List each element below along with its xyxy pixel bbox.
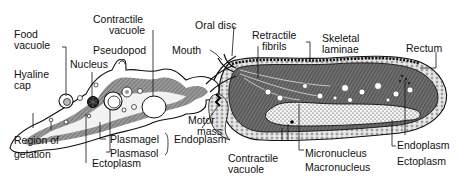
label-contractile-vacuole-ciliate: Contractile vacuole <box>228 153 278 175</box>
label-hyaline-cap: Hyaline cap <box>14 69 49 91</box>
label-macronucleus: Macronucleus <box>305 162 370 173</box>
label-line-2: vacuole <box>14 40 50 51</box>
label-oral-disc: Oral disc <box>195 20 236 31</box>
label-line-2: gelation <box>14 149 59 160</box>
label-ectoplasm-ciliate: Ectoplasm <box>397 156 446 167</box>
label-retractile-fibrils: Retractile fibrils <box>252 30 296 52</box>
label-line-2: mass <box>188 126 222 137</box>
label-plasmagel: Plasmagel <box>110 134 159 145</box>
label-contractile-vacuole-amoeba: Contractile vacuole <box>93 14 145 36</box>
label-pseudopod: Pseudopod <box>93 45 146 56</box>
label-food-vacuole: Food vacuole <box>14 29 50 51</box>
label-mouth: Mouth <box>172 45 201 56</box>
label-line-1: Region of <box>14 135 59 146</box>
label-line-2: fibrils <box>252 41 296 52</box>
protozoa-diagram: Contractile vacuole Food vacuole Pseudop… <box>0 0 461 179</box>
label-ectoplasm-amoeba: Ectoplasm <box>92 158 141 169</box>
label-line-2: vacuole <box>228 164 278 175</box>
label-endoplasm-ciliate: Endoplasm <box>397 140 450 151</box>
label-micronucleus: Micronucleus <box>305 148 367 159</box>
label-skeletal-laminae: Skeletal laminae <box>322 33 359 55</box>
label-line-2: cap <box>14 80 49 91</box>
label-line-2: laminae <box>322 44 359 55</box>
label-line-2: vacuole <box>93 25 145 36</box>
label-region-of-gelation: Region of gelation <box>14 135 59 160</box>
ciliate-cell <box>206 54 447 141</box>
label-motor-mass: Motor mass <box>188 115 222 137</box>
label-nucleus: Nucleus <box>70 59 108 70</box>
label-rectum: Rectum <box>406 43 442 54</box>
